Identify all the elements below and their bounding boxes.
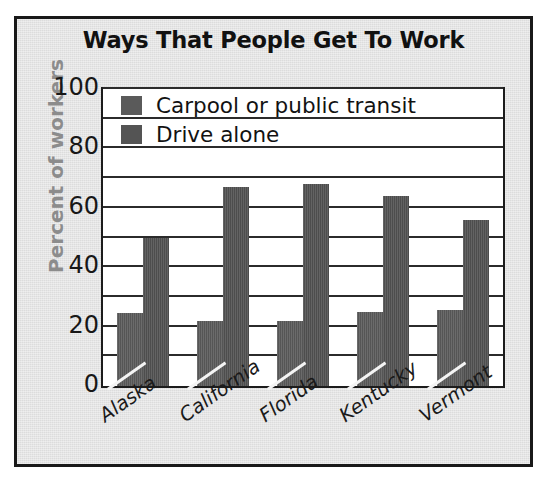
bar [223,187,249,386]
y-tick-label: 100 [37,75,99,99]
chart-figure: Ways That People Get To Work Percent of … [14,16,533,467]
bar [463,220,489,386]
x-tick-wrap: Alaska [101,386,181,470]
bar [303,184,329,386]
chart-legend: Carpool or public transit Drive alone [121,91,421,149]
bar [143,238,169,387]
x-tick-wrap: California [181,386,261,470]
y-tick-label: 40 [37,253,99,277]
x-tick-wrap: Kentucky [341,386,421,470]
legend-swatch-icon [121,125,142,144]
legend-label: Drive alone [156,122,279,147]
x-tick-wrap: Vermont [421,386,501,470]
bar-group [423,89,503,386]
legend-label: Carpool or public transit [156,93,416,118]
x-tick-wrap: Florida [261,386,341,470]
y-tick-label: 20 [37,313,99,337]
y-tick-label: 80 [37,134,99,158]
x-axis-tick-labels: AlaskaCaliforniaFloridaKentuckyVermont [101,386,501,470]
legend-item-drive-alone: Drive alone [121,120,421,149]
y-tick-label: 0 [37,372,99,396]
y-axis-tick-labels: 100 80 60 40 20 0 [29,19,99,470]
y-tick-label: 60 [37,194,99,218]
legend-swatch-icon [121,96,142,115]
legend-item-carpool: Carpool or public transit [121,91,421,120]
